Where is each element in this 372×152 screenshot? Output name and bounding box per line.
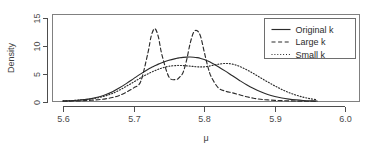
density-curve-small-k	[63, 63, 317, 100]
x-axis: 5.65.75.85.96.0	[57, 107, 352, 125]
y-axis: 051015	[32, 13, 48, 105]
y-tick-label: 10	[32, 41, 42, 51]
chart-canvas: 5.65.75.85.96.0 051015 Original kLarge k…	[0, 0, 372, 152]
density-curve-original-k	[63, 57, 317, 101]
y-axis-title: Density	[6, 42, 16, 73]
x-tick-label: 5.6	[57, 114, 70, 124]
density-plot-figure: 5.65.75.85.96.0 051015 Original kLarge k…	[0, 0, 372, 152]
legend-label-original-k: Original k	[296, 25, 335, 35]
y-tick-label: 5	[32, 72, 42, 77]
x-axis-title: μ	[203, 133, 208, 143]
x-tick-label: 5.7	[128, 114, 141, 124]
x-tick-label: 5.8	[198, 114, 211, 124]
legend-label-large-k: Large k	[296, 37, 327, 47]
chart-legend: Original kLarge kSmall k	[265, 19, 356, 60]
legend-label-small-k: Small k	[296, 50, 326, 60]
y-tick-label: 15	[32, 13, 42, 23]
x-tick-label: 5.9	[269, 114, 282, 124]
y-tick-label: 0	[32, 100, 42, 105]
x-tick-label: 6.0	[339, 114, 352, 124]
